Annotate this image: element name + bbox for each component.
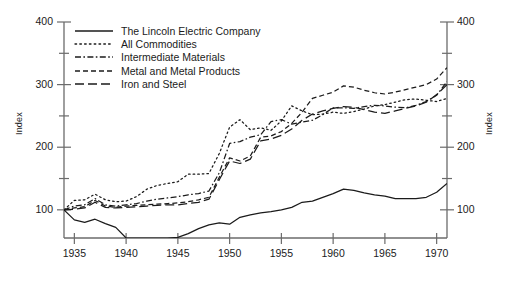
x-tick-label: 1950 [210,247,250,259]
y-tick-label-right: 400 [457,15,485,27]
series-line [64,98,447,209]
series-line [64,184,447,238]
x-tick-label: 1965 [365,247,405,259]
legend-item: Metal and Metal Products [74,64,260,77]
y-tick-label-right: 100 [457,203,485,215]
legend-label: All Commodities [121,38,197,50]
y-tick-label-right: 200 [457,140,485,152]
chart-container: Index Index The Lincoln Electric Company… [0,0,511,284]
y-tick-label-left: 400 [25,15,53,27]
x-tick-label: 1945 [158,247,198,259]
legend-label: Intermediate Materials [121,51,225,63]
y-tick-label-left: 300 [25,78,53,90]
x-tick-label: 1960 [313,247,353,259]
y-tick-label-left: 200 [25,140,53,152]
legend-key-dashed [74,65,114,77]
legend-item: Iron and Steel [74,78,260,91]
x-tick-label: 1955 [261,247,301,259]
x-tick-label: 1935 [54,247,94,259]
legend-label: Metal and Metal Products [121,65,240,77]
y-tick-label-right: 300 [457,78,485,90]
legend-key-solid [74,25,114,37]
legend-label: Iron and Steel [121,78,186,90]
legend-key-longdash [74,78,114,90]
y-tick-label-left: 100 [25,203,53,215]
x-tick-label: 1970 [417,247,457,259]
x-tick-label: 1940 [106,247,146,259]
chart-legend: The Lincoln Electric Company All Commodi… [74,24,260,91]
legend-label: The Lincoln Electric Company [121,25,260,37]
legend-item: The Lincoln Electric Company [74,24,260,37]
legend-item: Intermediate Materials [74,51,260,64]
legend-key-dotted [74,38,114,50]
legend-item: All Commodities [74,37,260,50]
legend-key-dashdot [74,51,114,63]
